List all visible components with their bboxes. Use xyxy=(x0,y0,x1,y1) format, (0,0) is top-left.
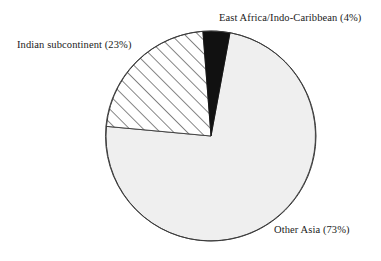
pie-label-east-africa-indo-caribbean: East Africa/Indo-Caribbean (4%) xyxy=(219,12,361,24)
pie-label-other-asia: Other Asia (73%) xyxy=(274,224,350,236)
pie-chart-figure: East Africa/Indo-Caribbean (4%) Indian s… xyxy=(0,0,381,261)
pie-label-indian-subcontinent: Indian subcontinent (23%) xyxy=(17,39,131,51)
